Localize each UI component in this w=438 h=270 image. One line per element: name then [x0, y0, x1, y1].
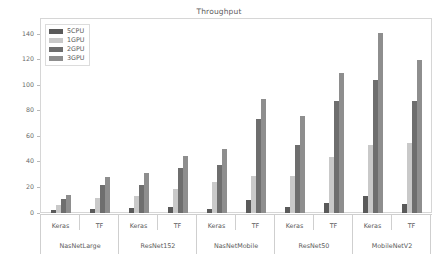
y-tick-label: 60 — [26, 132, 34, 139]
bar-subgroup — [236, 19, 275, 213]
y-tick-label: 140 — [22, 30, 34, 37]
legend-item[interactable]: 2GPU — [49, 45, 85, 54]
chart-legend: 5CPU1GPU2GPU3GPU — [45, 24, 90, 66]
x-axis-subgroup-label: TF — [158, 222, 197, 230]
x-axis-subgroup-label: Keras — [275, 222, 314, 230]
y-axis-ticks: 020406080100120140 — [0, 0, 40, 270]
bar — [183, 156, 188, 213]
bar — [144, 173, 149, 213]
bar-subgroup — [158, 19, 197, 213]
bar-group — [275, 19, 353, 213]
y-tick-label: 20 — [26, 183, 34, 190]
legend-item-label: 2GPU — [67, 45, 85, 54]
bar-subgroup — [275, 19, 314, 213]
legend-swatch-icon — [49, 38, 63, 43]
bar — [66, 195, 71, 213]
legend-swatch-icon — [49, 29, 63, 34]
x-axis-group-label: ResNet50 — [275, 242, 353, 250]
x-axis-subgroup-label: Keras — [197, 222, 236, 230]
legend-item[interactable]: 5CPU — [49, 27, 85, 36]
x-axis-subgroup-label: Keras — [353, 222, 392, 230]
bar-subgroup — [392, 19, 431, 213]
bar — [105, 177, 110, 213]
legend-item-label: 3GPU — [67, 54, 85, 63]
x-axis-subgroup-label: Keras — [41, 222, 80, 230]
x-axis-rule — [40, 214, 432, 215]
legend-item-label: 5CPU — [67, 27, 84, 36]
bar — [339, 73, 344, 213]
legend-swatch-icon — [49, 56, 63, 61]
y-tick-label: 120 — [22, 55, 34, 62]
x-axis-subgroup-label: TF — [236, 222, 275, 230]
x-axis-subgroup-label: TF — [392, 222, 431, 230]
x-axis-subgroup-label: TF — [80, 222, 119, 230]
x-axis-group-label: MobileNetV2 — [353, 242, 431, 250]
y-tick-label: 0 — [30, 209, 34, 216]
bar-subgroup — [353, 19, 392, 213]
bar-group — [119, 19, 197, 213]
plot-area — [41, 19, 431, 213]
bar — [417, 60, 422, 213]
legend-item[interactable]: 3GPU — [49, 54, 85, 63]
throughput-bar-chart-figure: Throughput 020406080100120140 images/sec… — [0, 0, 438, 270]
bar — [222, 149, 227, 213]
bar-subgroup — [197, 19, 236, 213]
x-axis-group-label: NasNetMobile — [197, 242, 275, 250]
chart-title: Throughput — [0, 7, 438, 16]
x-axis-subgroup-label: Keras — [119, 222, 158, 230]
x-axis-group-label: ResNet152 — [119, 242, 197, 250]
y-tick-label: 40 — [26, 157, 34, 164]
bar — [300, 116, 305, 213]
x-axis-subgroup-label: TF — [314, 222, 353, 230]
bar-group — [353, 19, 431, 213]
bar — [261, 99, 266, 213]
bar — [378, 33, 383, 213]
y-tick-label: 80 — [26, 106, 34, 113]
bar-subgroup — [119, 19, 158, 213]
x-axis-group-label: NasNetLarge — [41, 242, 119, 250]
legend-swatch-icon — [49, 47, 63, 52]
bar-subgroup — [314, 19, 353, 213]
y-tick-label: 100 — [22, 81, 34, 88]
legend-item[interactable]: 1GPU — [49, 36, 85, 45]
bar-group — [197, 19, 275, 213]
legend-item-label: 1GPU — [67, 36, 85, 45]
